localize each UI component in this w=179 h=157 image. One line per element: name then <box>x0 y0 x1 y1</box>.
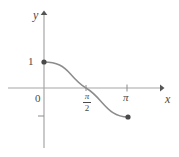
x-axis-arrowhead <box>160 84 165 91</box>
x-tick-label-pi: π <box>123 92 129 103</box>
x-tick-label-pi-over-two: π 2 <box>80 92 94 113</box>
fraction-pi-over-two: π 2 <box>83 92 91 113</box>
x-axis-label: x <box>165 93 170 105</box>
math-figure: y x 1 0 π 2 π <box>0 0 179 157</box>
fraction-numerator: π <box>83 92 91 102</box>
y-tick-label-one: 1 <box>28 56 34 67</box>
fraction-denominator: 2 <box>83 103 91 113</box>
graph-canvas <box>0 0 179 157</box>
origin-label-zero: 0 <box>35 93 41 104</box>
y-axis-label: y <box>33 9 38 21</box>
curve-end-dot <box>125 114 130 119</box>
curve-start-dot <box>41 59 46 64</box>
y-axis-arrowhead <box>41 11 48 16</box>
